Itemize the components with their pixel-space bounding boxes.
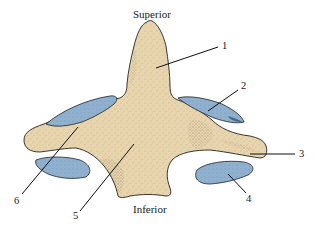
callout-label-5: 5	[73, 211, 78, 222]
axis-vertebra-illustration	[0, 0, 315, 232]
callout-label-3: 3	[299, 149, 304, 160]
orientation-label-superior: Superior	[133, 9, 171, 20]
orientation-label-inferior: Inferior	[133, 204, 167, 215]
figure-canvas: Superior Inferior 1 2 3 4 5 6	[0, 0, 315, 232]
callout-label-4: 4	[246, 194, 251, 205]
callout-label-6: 6	[14, 196, 19, 207]
right-inferior-articular-facet	[196, 161, 253, 184]
callout-label-1: 1	[222, 41, 227, 52]
callout-label-2: 2	[241, 81, 246, 92]
